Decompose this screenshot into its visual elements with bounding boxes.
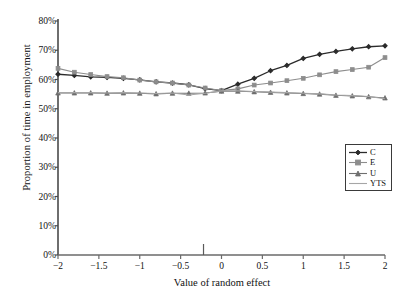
legend-label: U — [370, 169, 376, 178]
series-marker-E — [105, 75, 109, 79]
x-tick-label: −0.5 — [172, 261, 189, 271]
series-marker-E — [350, 68, 354, 72]
legend-symbol-C — [348, 148, 368, 157]
series-marker-E — [72, 70, 76, 74]
series-marker-E — [269, 81, 273, 85]
series-marker-E — [171, 81, 175, 85]
series-marker-C — [252, 76, 256, 80]
x-tick-label: 1.5 — [338, 261, 350, 271]
x-tick-label: 1 — [301, 261, 306, 271]
series-marker-C — [383, 44, 387, 48]
series-marker-E — [154, 80, 158, 84]
series-marker-E — [383, 56, 387, 60]
legend-label: C — [370, 148, 376, 157]
series-marker-C — [268, 69, 272, 73]
legend-symbol-U — [348, 169, 368, 178]
series-marker-C — [350, 47, 354, 51]
series-marker-E — [56, 66, 60, 70]
chart-legend: CEUYTS — [345, 144, 392, 191]
x-tick-label: 0 — [219, 261, 224, 271]
series-marker-C — [301, 56, 305, 60]
legend-item-C[interactable]: C — [348, 147, 389, 158]
legend-item-U[interactable]: U — [348, 168, 389, 179]
series-marker-E — [203, 86, 207, 90]
x-tick-label: −1 — [135, 261, 145, 271]
series-marker-E — [252, 83, 256, 87]
series-marker-E — [122, 76, 126, 80]
x-axis-ticklabels: −2−1.5−1−0.500.511.52 — [0, 261, 402, 277]
x-tick-label: −1.5 — [90, 261, 107, 271]
series-marker-E — [285, 79, 289, 83]
series-marker-E — [89, 73, 93, 77]
series-marker-C — [236, 82, 240, 86]
legend-item-YTS[interactable]: YTS — [348, 179, 389, 190]
legend-label: E — [370, 158, 375, 167]
series-marker-C — [285, 63, 289, 67]
series-marker-E — [301, 76, 305, 80]
series-marker-E — [367, 65, 371, 69]
series-marker-E — [318, 73, 322, 77]
series-marker-E — [187, 83, 191, 87]
legend-symbol-E — [348, 158, 368, 167]
series-line-E — [58, 58, 385, 91]
x-axis-title: Value of random effect — [58, 277, 386, 288]
legend-symbol-YTS — [348, 179, 368, 188]
chart-figure: Proportion of time in employment 0%10%20… — [0, 0, 402, 301]
chart-plot-area — [0, 0, 402, 301]
series-marker-C — [367, 45, 371, 49]
series-marker-C — [334, 49, 338, 53]
x-tick-label: 0.5 — [256, 261, 268, 271]
legend-item-E[interactable]: E — [348, 158, 389, 169]
series-marker-C — [318, 52, 322, 56]
series-marker-E — [138, 78, 142, 82]
series-marker-E — [334, 70, 338, 74]
legend-label: YTS — [370, 179, 386, 188]
x-tick-label: 2 — [383, 261, 388, 271]
x-tick-label: −2 — [53, 261, 63, 271]
series-marker-C — [56, 72, 60, 76]
